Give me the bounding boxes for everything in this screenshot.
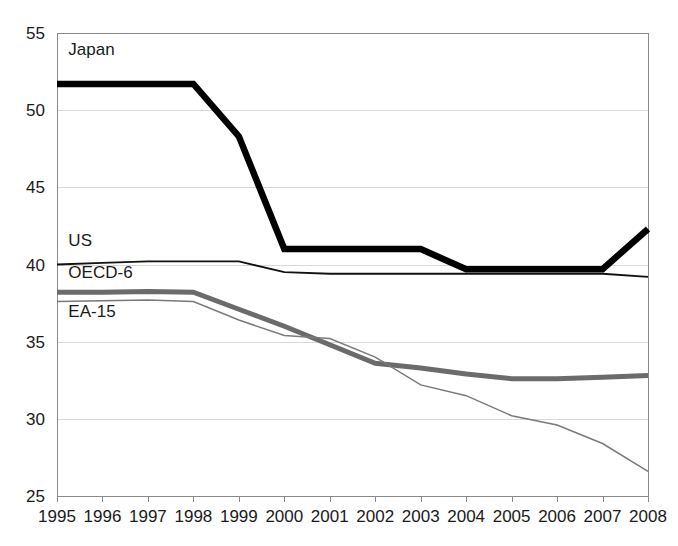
y-axis-tick-labels: 25303540455055: [26, 24, 45, 506]
series-label-oecd-6: OECD-6: [68, 263, 132, 282]
data-series: [57, 84, 648, 471]
y-axis-tick-label: 45: [26, 178, 45, 197]
x-axis-tick-label: 1996: [84, 507, 122, 526]
series-line-oecd-6: [57, 292, 648, 379]
series-line-japan: [57, 84, 648, 269]
x-axis-tick-label: 2003: [402, 507, 440, 526]
x-axis-tick-label: 2005: [493, 507, 531, 526]
x-axis-tick-labels: 1995199619971998199920002001200220032004…: [38, 507, 667, 526]
x-axis-tick-label: 2008: [629, 507, 667, 526]
chart-container: 25303540455055 1995199619971998199920002…: [0, 0, 678, 546]
y-axis-tick-label: 30: [26, 410, 45, 429]
x-axis-tick-label: 2006: [538, 507, 576, 526]
x-axis-tick-label: 2004: [447, 507, 485, 526]
series-label-japan: Japan: [68, 40, 114, 59]
x-axis-tick-label: 1997: [129, 507, 167, 526]
y-axis-tick-label: 35: [26, 333, 45, 352]
x-axis-tick-label: 2007: [584, 507, 622, 526]
x-axis-tick-label: 2002: [356, 507, 394, 526]
gridlines: [57, 111, 648, 420]
y-axis-tick-label: 50: [26, 101, 45, 120]
y-axis-tick-label: 55: [26, 24, 45, 43]
x-axis-tick-label: 1995: [38, 507, 76, 526]
y-axis-tick-label: 25: [26, 487, 45, 506]
series-label-us: US: [68, 231, 92, 250]
y-axis-tick-label: 40: [26, 256, 45, 275]
line-chart: 25303540455055 1995199619971998199920002…: [0, 0, 678, 546]
x-axis-tick-label: 1999: [220, 507, 258, 526]
x-axis-tick-label: 2000: [265, 507, 303, 526]
x-axis-tick-label: 1998: [174, 507, 212, 526]
series-line-ea-15: [57, 300, 648, 471]
x-axis-tick-label: 2001: [311, 507, 349, 526]
series-label-ea-15: EA-15: [68, 302, 115, 321]
